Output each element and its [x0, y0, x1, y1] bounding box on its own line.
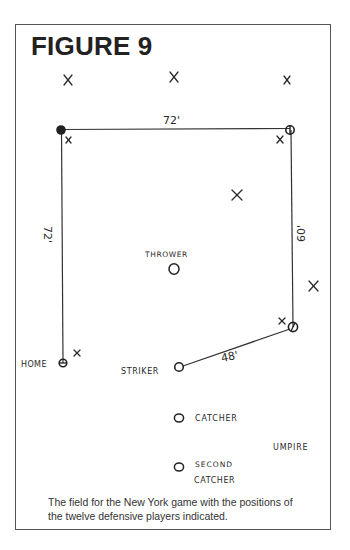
- fielder-marks: [64, 72, 318, 356]
- player-circles: [169, 264, 184, 471]
- caption-line-1: The field for the New York game with the…: [48, 495, 318, 509]
- umpire-label: UMPIRE: [273, 443, 308, 452]
- striker-label: STRIKER: [121, 367, 159, 376]
- distance-left-label: 72': [41, 226, 54, 243]
- distance-striker-label: 48': [220, 349, 239, 365]
- fielder-x-icon: [66, 137, 71, 143]
- home-label: HOME: [21, 360, 47, 369]
- left-line: [62, 130, 64, 363]
- thrower-label: THROWER: [144, 250, 188, 259]
- thrower-icon: [169, 264, 179, 275]
- striker-position-icon: [175, 363, 184, 372]
- top-line: [61, 129, 290, 130]
- fielder-x-icon: [170, 72, 178, 82]
- fielder-x-icon: [309, 281, 318, 291]
- field-lines: [61, 129, 293, 367]
- catcher-label: CATCHER: [195, 414, 238, 423]
- catcher-icon: [174, 414, 183, 422]
- fielder-x-icon: [284, 76, 290, 84]
- base-top-left-icon: [57, 126, 65, 134]
- fielder-x-icon: [279, 318, 285, 324]
- figure-caption: The field for the New York game with the…: [48, 495, 318, 523]
- second-catcher-icon: [174, 463, 183, 471]
- field-diagram: 72' 72' 60' 48' HOME STRIKER THROWER CAT…: [0, 0, 350, 550]
- fielder-x-icon: [232, 190, 242, 200]
- second-catcher-label-line2: CATCHER: [194, 476, 235, 485]
- fielder-x-icon: [64, 75, 72, 85]
- caption-line-2: the twelve defensive players indicated.: [48, 509, 318, 523]
- second-catcher-label-line1: SECOND: [195, 460, 233, 469]
- fielder-x-icon: [74, 350, 80, 356]
- bases: [57, 126, 298, 372]
- fielder-x-icon: [277, 136, 283, 143]
- distance-right-label: 60': [295, 225, 308, 242]
- right-line: [291, 130, 293, 327]
- distance-top-label: 72': [163, 114, 180, 127]
